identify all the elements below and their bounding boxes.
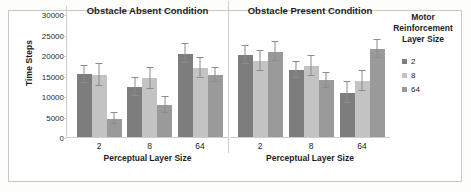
- legend-title-line-1: Motor: [392, 12, 454, 23]
- error-bar-cap-bottom: [272, 60, 279, 61]
- legend-item-label: 64: [411, 85, 420, 94]
- bar-group: [126, 14, 174, 137]
- bar[interactable]: [268, 52, 283, 137]
- legend-title-line-3: Layer Size: [392, 34, 454, 45]
- error-bar-cap-bottom: [197, 77, 204, 78]
- y-axis-tick-mark: [62, 138, 66, 139]
- bar-slot: [127, 14, 142, 137]
- bar-slot: [253, 14, 268, 137]
- error-bar-cap-bottom: [161, 112, 168, 113]
- error-bar: [362, 71, 363, 91]
- error-bar-cap-top: [212, 67, 219, 68]
- y-axis-tick-mark: [62, 118, 66, 119]
- bar-group: [75, 14, 123, 137]
- error-bar-cap-bottom: [242, 63, 249, 64]
- error-bar-cap-top: [161, 96, 168, 97]
- legend-item[interactable]: 64: [402, 82, 454, 96]
- x-axis-baseline: [230, 137, 390, 138]
- error-bar-cap-top: [182, 43, 189, 44]
- error-bar-cap-bottom: [308, 75, 315, 76]
- error-bar-cap-top: [293, 61, 300, 62]
- legend-item-label: 8: [411, 71, 415, 80]
- y-axis-tick-mark: [62, 56, 66, 57]
- error-bar-cap-bottom: [374, 57, 381, 58]
- error-bar-cap-bottom: [96, 85, 103, 86]
- error-bar: [326, 73, 327, 89]
- x-axis-tick-label: 8: [147, 141, 152, 151]
- bar-slot: [355, 14, 370, 137]
- y-axis-tick-label: 20000: [22, 52, 64, 61]
- bar[interactable]: [193, 68, 208, 137]
- bar-slot: [340, 14, 355, 137]
- error-bar-cap-top: [96, 63, 103, 64]
- bar[interactable]: [178, 54, 193, 137]
- error-bar: [185, 44, 186, 63]
- y-axis-tick-label: 25000: [22, 31, 64, 40]
- error-bar-cap-bottom: [323, 87, 330, 88]
- bar[interactable]: [289, 70, 304, 137]
- x-axis-tick-label: 64: [357, 141, 366, 151]
- bar-group: [236, 14, 284, 137]
- bar-slot: [289, 14, 304, 137]
- x-axis-tick-label: 2: [258, 141, 263, 151]
- error-bar: [245, 46, 246, 63]
- error-bar: [377, 40, 378, 58]
- error-bar-cap-bottom: [111, 123, 118, 124]
- y-axis-tick-mark: [62, 77, 66, 78]
- bar-group: [176, 14, 224, 137]
- x-axis-baseline: [67, 137, 228, 138]
- panel-obstacle-absent: Obstacle Absent Condition 2864 Perceptua…: [67, 0, 228, 192]
- plot-area-absent: [67, 15, 228, 138]
- bar-slot: [193, 14, 208, 137]
- y-axis-tick-label: 15000: [22, 72, 64, 81]
- bar[interactable]: [77, 74, 92, 137]
- bar-slot: [370, 14, 385, 137]
- x-axis-title-absent: Perceptual Layer Size: [67, 153, 228, 163]
- legend-title: Motor Reinforcement Layer Size: [392, 12, 454, 45]
- legend-items: 2864: [392, 54, 454, 96]
- y-axis-tick-label: 10000: [22, 93, 64, 102]
- bar[interactable]: [253, 61, 268, 137]
- error-bar: [200, 58, 201, 79]
- error-bar-cap-top: [374, 39, 381, 40]
- chart-figure: Time Steps 05000100001500020000250003000…: [0, 0, 471, 192]
- error-bar-cap-top: [308, 55, 315, 56]
- error-bar: [215, 68, 216, 83]
- error-bar-cap-bottom: [131, 95, 138, 96]
- bar-slot: [268, 14, 283, 137]
- legend-item[interactable]: 2: [402, 54, 454, 68]
- y-axis-tick-label: 30000: [22, 11, 64, 20]
- bar-slot: [77, 14, 92, 137]
- bar-slot: [92, 14, 107, 137]
- error-bar: [149, 68, 150, 89]
- bar-slot: [238, 14, 253, 137]
- error-bar-cap-top: [344, 81, 351, 82]
- error-bar-cap-top: [323, 72, 330, 73]
- bar[interactable]: [238, 55, 253, 137]
- panel-divider: [228, 1, 229, 153]
- error-bar-cap-top: [81, 65, 88, 66]
- bar[interactable]: [370, 49, 385, 137]
- bar-slot: [157, 14, 172, 137]
- bar[interactable]: [319, 80, 334, 137]
- legend-title-line-2: Reinforcement: [392, 23, 454, 34]
- bar-slot: [178, 14, 193, 137]
- legend-item[interactable]: 8: [402, 68, 454, 82]
- error-bar-cap-top: [146, 67, 153, 68]
- error-bar-cap-top: [197, 57, 204, 58]
- x-axis-tick-label: 2: [97, 141, 102, 151]
- bar[interactable]: [304, 66, 319, 137]
- error-bar: [275, 42, 276, 61]
- legend-swatch-icon: [402, 87, 407, 92]
- legend-item-label: 2: [411, 57, 415, 66]
- legend: Motor Reinforcement Layer Size 2864: [392, 12, 454, 96]
- error-bar-cap-top: [359, 70, 366, 71]
- error-bar-cap-top: [111, 112, 118, 113]
- error-bar: [296, 62, 297, 78]
- x-axis-tick-label: 64: [195, 141, 204, 151]
- error-bar: [347, 82, 348, 103]
- error-bar: [134, 78, 135, 95]
- bar-slot: [142, 14, 157, 137]
- error-bar-cap-top: [272, 41, 279, 42]
- bar[interactable]: [208, 75, 223, 137]
